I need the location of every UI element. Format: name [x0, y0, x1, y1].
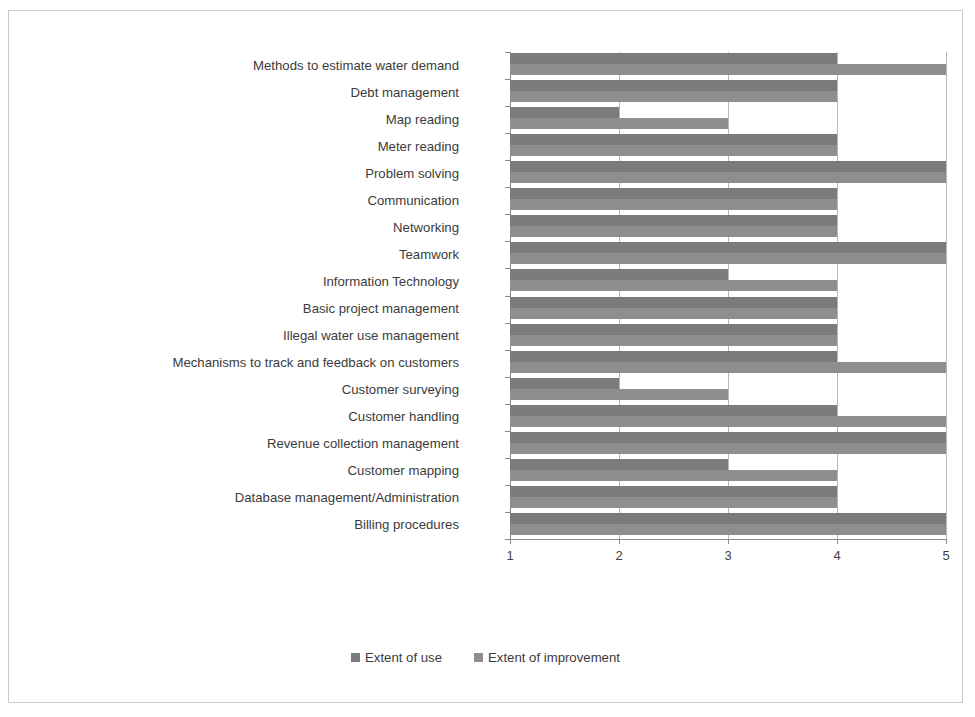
bar-extent-of-improvement [510, 226, 837, 237]
category-label: Illegal water use management [283, 329, 459, 342]
x-axis-tick-label: 2 [615, 548, 622, 563]
category-label: Map reading [386, 113, 459, 126]
legend-label: Extent of improvement [488, 650, 620, 665]
category-label: Meter reading [378, 140, 459, 153]
x-axis-tick [946, 539, 947, 544]
x-axis-tick-label: 1 [506, 548, 513, 563]
category-label: Database management/Administration [235, 491, 459, 504]
bar-extent-of-improvement [510, 470, 837, 481]
bar-extent-of-improvement [510, 172, 946, 183]
bar-group [510, 160, 946, 187]
bar-extent-of-use [510, 107, 619, 118]
plot-area: 12345 [510, 52, 946, 539]
bar-extent-of-use [510, 188, 837, 199]
category-label: Debt management [351, 86, 460, 99]
bar-extent-of-use [510, 242, 946, 253]
bar-group [510, 458, 946, 485]
bar-extent-of-improvement [510, 362, 946, 373]
bar-group [510, 52, 946, 79]
bar-group [510, 404, 946, 431]
bar-extent-of-use [510, 53, 837, 64]
x-axis-tick [510, 539, 511, 544]
bar-group [510, 187, 946, 214]
bar-extent-of-use [510, 269, 728, 280]
bar-group [510, 431, 946, 458]
bar-extent-of-improvement [510, 335, 837, 346]
category-label: Teamwork [399, 248, 459, 261]
bar-extent-of-improvement [510, 308, 837, 319]
bar-extent-of-use [510, 297, 837, 308]
category-label: Methods to estimate water demand [253, 59, 459, 72]
category-label: Information Technology [323, 275, 459, 288]
bar-extent-of-improvement [510, 145, 837, 156]
bar-extent-of-improvement [510, 389, 728, 400]
bar-extent-of-improvement [510, 64, 946, 75]
bar-extent-of-use [510, 161, 946, 172]
category-label: Customer mapping [348, 464, 459, 477]
chart-legend: Extent of useExtent of improvement [9, 650, 962, 665]
bar-extent-of-improvement [510, 118, 728, 129]
bar-extent-of-improvement [510, 497, 837, 508]
bar-group [510, 79, 946, 106]
bar-extent-of-use [510, 459, 728, 470]
bar-group [510, 133, 946, 160]
legend-swatch-icon [474, 653, 483, 662]
category-label: Mechanisms to track and feedback on cust… [172, 356, 459, 369]
category-label: Billing procedures [354, 518, 459, 531]
category-label: Revenue collection management [267, 437, 459, 450]
bar-group [510, 323, 946, 350]
bar-extent-of-use [510, 324, 837, 335]
bar-extent-of-improvement [510, 524, 946, 535]
bar-extent-of-use [510, 351, 837, 362]
bar-extent-of-use [510, 80, 837, 91]
bar-extent-of-improvement [510, 443, 946, 454]
bar-group [510, 241, 946, 268]
bar-group [510, 350, 946, 377]
legend-label: Extent of use [365, 650, 442, 665]
category-label: Customer handling [348, 410, 459, 423]
gridline [946, 52, 947, 539]
chart-frame: 12345 Methods to estimate water demandDe… [8, 10, 963, 703]
bar-group [510, 106, 946, 133]
bar-group [510, 296, 946, 323]
bar-group [510, 214, 946, 241]
bar-extent-of-use [510, 134, 837, 145]
x-axis-tick [837, 539, 838, 544]
bar-extent-of-use [510, 405, 837, 416]
bar-extent-of-improvement [510, 280, 837, 291]
bar-extent-of-use [510, 513, 946, 524]
x-axis-tick [728, 539, 729, 544]
category-label: Problem solving [365, 167, 459, 180]
bar-group [510, 377, 946, 404]
legend-item[interactable]: Extent of improvement [474, 650, 620, 665]
bar-extent-of-improvement [510, 416, 946, 427]
category-label: Basic project management [303, 302, 459, 315]
category-label: Communication [367, 194, 459, 207]
bar-extent-of-improvement [510, 199, 837, 210]
bar-group [510, 485, 946, 512]
category-label: Networking [393, 221, 459, 234]
bar-group [510, 512, 946, 539]
bar-group [510, 268, 946, 295]
bar-extent-of-improvement [510, 91, 837, 102]
x-axis-tick [619, 539, 620, 544]
x-axis-tick-label: 5 [942, 548, 949, 563]
bar-extent-of-use [510, 432, 946, 443]
legend-swatch-icon [351, 653, 360, 662]
bar-extent-of-use [510, 215, 837, 226]
legend-item[interactable]: Extent of use [351, 650, 442, 665]
x-axis-tick-label: 3 [724, 548, 731, 563]
bar-extent-of-use [510, 486, 837, 497]
x-axis-tick-label: 4 [833, 548, 840, 563]
category-label: Customer surveying [342, 383, 459, 396]
bar-extent-of-improvement [510, 253, 946, 264]
bar-extent-of-use [510, 378, 619, 389]
